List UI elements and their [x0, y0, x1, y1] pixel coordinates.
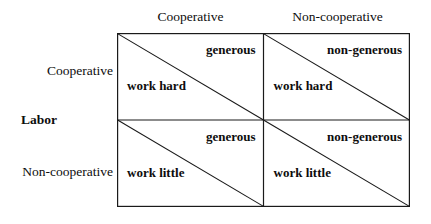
- cell-payoff-upper-0-0: generous: [206, 41, 256, 58]
- matrix-cell-coop-coop: generous work hard: [117, 33, 264, 120]
- row-header-cooperative: Cooperative: [0, 62, 113, 80]
- column-header-non-cooperative: Non-cooperative: [264, 8, 411, 26]
- axis-title-labor: Labor: [21, 111, 57, 129]
- cell-payoff-upper-0-1: non-generous: [327, 41, 402, 58]
- row-header-non-cooperative: Non-cooperative: [0, 163, 113, 181]
- cell-payoff-upper-1-1: non-generous: [327, 128, 402, 145]
- cell-payoff-lower-1-1: work little: [274, 164, 331, 181]
- matrix-cell-noncoop-coop: generous work little: [117, 120, 264, 207]
- matrix-cell-noncoop-noncoop: non-generous work little: [264, 120, 411, 207]
- column-header-cooperative: Cooperative: [117, 8, 264, 26]
- cell-payoff-lower-1-0: work little: [127, 164, 184, 181]
- matrix-grid: generous work hard non-generous work har…: [117, 33, 410, 207]
- payoff-matrix-figure: Cooperative Non-cooperative Cooperative …: [0, 0, 431, 224]
- cell-payoff-lower-0-1: work hard: [274, 77, 333, 94]
- cell-payoff-upper-1-0: generous: [206, 128, 256, 145]
- cell-payoff-lower-0-0: work hard: [127, 77, 186, 94]
- matrix-cell-coop-noncoop: non-generous work hard: [264, 33, 411, 120]
